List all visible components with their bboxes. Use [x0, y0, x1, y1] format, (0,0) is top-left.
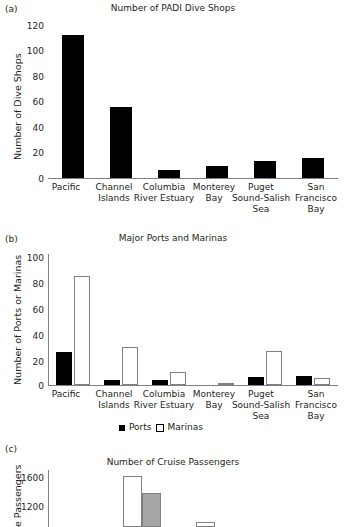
x-label-b-5-line2: Francisco	[288, 400, 344, 411]
bar-b-ports-pacific	[56, 352, 72, 385]
bar-b-marinas-pacific	[74, 276, 90, 385]
y-axis-line-c	[48, 470, 49, 527]
y-tick-a-60: 60	[2, 98, 44, 107]
x-label-a-5-line2: Francisco	[288, 193, 344, 204]
y-tick-a-80: 80	[2, 73, 44, 82]
y-tick-a-40: 40	[2, 124, 44, 133]
x-label-a-4-line1: Puget	[226, 182, 296, 193]
bar-b-ports-channel-islands	[104, 380, 120, 385]
bar-b-marinas-puget-sound-salish-sea	[266, 351, 282, 385]
x-label-a-5: San Francisco Bay	[288, 182, 344, 215]
bar-b-marinas-channel-islands	[122, 347, 138, 385]
panel-title-a: Number of PADI Dive Shops	[0, 3, 346, 14]
bar-c-series-3	[196, 522, 215, 527]
plot-area-a: 120 100 80 60 40 20 0	[48, 20, 338, 180]
plot-area-b: 100 80 60 40 20 0	[48, 254, 338, 386]
legend-swatch-ports-icon	[119, 425, 125, 431]
x-label-b-4: Puget Sound-Salish Sea	[226, 389, 296, 422]
bar-b-ports-columbia-river-estuary	[152, 380, 168, 385]
legend-label-marinas: Marinas	[168, 422, 203, 433]
y-tick-c-1200: 1200	[2, 503, 44, 512]
y-tick-b-80: 80	[2, 280, 44, 289]
y-tick-b-40: 40	[2, 332, 44, 341]
chart-panel-c: (c) Number of Cruise Passengers e Passen…	[0, 440, 346, 527]
bar-b-ports-puget-sound-salish-sea	[248, 377, 264, 385]
x-label-a-4-line2: Sound-Salish	[226, 193, 296, 204]
x-label-b-4-line1: Puget	[226, 389, 296, 400]
bar-b-marinas-monterey-bay	[218, 383, 234, 385]
legend-swatch-marinas-icon	[156, 424, 164, 432]
x-label-b-4-line2: Sound-Salish	[226, 400, 296, 411]
bar-a-monterey-bay	[206, 166, 228, 178]
x-label-a-4-line3: Sea	[226, 204, 296, 215]
bar-b-marinas-columbia-river-estuary	[170, 372, 186, 385]
bar-a-san-francisco-bay	[302, 158, 324, 178]
x-label-a-5-line3: Bay	[288, 204, 344, 215]
bar-a-columbia-river-estuary	[158, 170, 180, 178]
y-tick-a-20: 20	[2, 149, 44, 158]
x-label-b-5: San Francisco Bay	[288, 389, 344, 422]
legend-b: Ports Marinas	[119, 422, 203, 433]
bar-c-series-2	[142, 493, 161, 527]
bar-a-channel-islands	[110, 107, 132, 178]
y-tick-b-60: 60	[2, 306, 44, 315]
bar-b-ports-san-francisco-bay	[296, 376, 312, 385]
chart-panel-a: (a) Number of PADI Dive Shops Number of …	[0, 0, 346, 230]
legend-label-ports: Ports	[129, 422, 152, 433]
y-tick-b-20: 20	[2, 358, 44, 367]
x-label-a-5-line1: San	[288, 182, 344, 193]
bar-b-marinas-san-francisco-bay	[314, 378, 330, 385]
bar-c-series-1	[123, 476, 142, 527]
x-axis-line-b	[48, 385, 338, 386]
x-label-b-5-line1: San	[288, 389, 344, 400]
x-axis-line-a	[48, 178, 338, 179]
panel-letter-c: (c)	[5, 444, 17, 455]
x-label-b-5-line3: Bay	[288, 411, 344, 422]
panel-title-c: Number of Cruise Passengers	[0, 457, 346, 468]
y-tick-a-120: 120	[2, 22, 44, 31]
y-tick-b-100: 100	[2, 254, 44, 263]
chart-panel-b: (b) Major Ports and Marinas Number of Po…	[0, 230, 346, 440]
x-label-a-4: Puget Sound-Salish Sea	[226, 182, 296, 215]
y-axis-line-b	[48, 254, 49, 385]
bar-a-pacific	[62, 35, 84, 178]
y-tick-c-1600: 1600	[2, 474, 44, 483]
plot-area-c: 1600 1200	[48, 470, 338, 527]
panel-title-b: Major Ports and Marinas	[0, 233, 346, 244]
y-tick-a-100: 100	[2, 47, 44, 56]
bar-a-puget-sound-salish-sea	[254, 161, 276, 178]
x-label-b-4-line3: Sea	[226, 411, 296, 422]
